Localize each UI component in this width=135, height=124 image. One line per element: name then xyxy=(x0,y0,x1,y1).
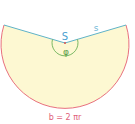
slant-label: s xyxy=(94,23,99,33)
angle-label: φ xyxy=(63,47,69,57)
apex-point xyxy=(64,42,66,44)
arc-length-label: b = 2 πr xyxy=(49,113,82,122)
apex-label: S xyxy=(62,31,68,42)
cone-net-diagram: S s φ b = 2 πr xyxy=(0,0,135,124)
